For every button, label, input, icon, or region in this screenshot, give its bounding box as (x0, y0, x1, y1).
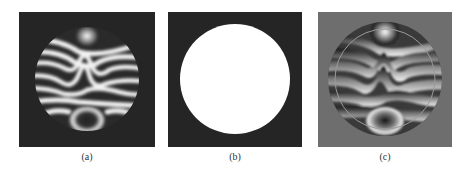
caption-b: (b) (168, 151, 302, 162)
mask-image-b (168, 12, 302, 147)
phase-image-c (318, 12, 452, 147)
fringe-image-a (19, 12, 155, 147)
panel-a-fringe-pattern (19, 12, 155, 147)
panel-b-circular-mask (168, 12, 302, 147)
caption-c: (c) (318, 151, 452, 162)
panel-c-extrapolated-phase (318, 12, 452, 147)
caption-a: (a) (19, 151, 155, 162)
